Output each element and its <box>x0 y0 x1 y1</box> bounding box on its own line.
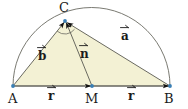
vector-label-a: a <box>121 30 129 42</box>
vector-label-n-text: n <box>80 47 89 61</box>
point-m-dot <box>90 84 94 88</box>
point-c-dot <box>63 19 67 23</box>
vector-label-b-text: b <box>38 49 46 63</box>
vector-label-a-text: a <box>121 29 129 43</box>
point-b-dot <box>168 84 172 88</box>
vector-label-r2: r <box>128 90 134 102</box>
geometry-figure: A M B C b n a r <box>0 0 188 109</box>
vector-label-b: b <box>38 50 46 62</box>
vector-label-r2-text: r <box>128 89 134 103</box>
point-label-b: B <box>164 92 174 105</box>
point-label-c: C <box>59 1 69 14</box>
point-label-a: A <box>8 92 17 105</box>
vector-label-n: n <box>80 48 89 60</box>
point-a-dot <box>11 84 15 88</box>
vector-label-r1: r <box>48 90 54 102</box>
triangle-acb-fill <box>13 21 170 86</box>
vector-label-r1-text: r <box>48 89 54 103</box>
point-label-m: M <box>85 92 98 105</box>
